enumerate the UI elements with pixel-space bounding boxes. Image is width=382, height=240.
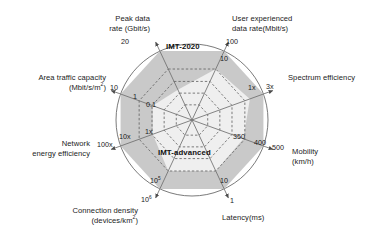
tick-spectrum-1x: 1x (248, 84, 256, 92)
tick-connection-density-10e6: 106 (141, 196, 152, 204)
series-label-imt-advanced: IMT-advanced (158, 148, 211, 157)
tick-network-energy-100x: 100x (97, 141, 113, 149)
axis-label-mobility-line2: (km/h) (292, 157, 378, 167)
axis-label-spectrum-efficiency-text: Spectrum efficiency (288, 73, 355, 82)
tick-network-energy-10x: 10x (119, 133, 131, 141)
axis-label-user-experienced-data-rate: User experienced data rate(Mbit/s) (232, 14, 342, 33)
axis-label-peak-data-rate-line2: rate (Gbit/s) (62, 24, 150, 34)
tick-conn-inner-base: 10 (150, 176, 158, 185)
axis-label-user-exp-line1: User experienced (232, 14, 292, 23)
radar-chart-canvas (0, 0, 382, 240)
axis-label-network-energy-line1: Network (62, 139, 90, 148)
tick-mobility-350: 350 (233, 133, 245, 141)
tick-network-energy-1x: 1x (145, 128, 153, 136)
tick-mobility-500: 500 (272, 144, 284, 152)
tick-latency-1: 1 (230, 197, 234, 205)
axis-label-area-traffic-close: ) (103, 83, 106, 92)
tick-area-traffic-1: 1 (133, 93, 137, 101)
axis-label-network-energy-efficiency: Network energy efficiency (4, 139, 90, 158)
axis-label-area-traffic-capacity: Area traffic capacity (Mbit/s/m2) (2, 73, 106, 92)
axis-label-area-traffic-unit: (Mbit/s/m (69, 83, 101, 92)
tick-latency-10: 10 (220, 177, 228, 185)
axis-label-mobility: Mobility (km/h) (292, 147, 378, 166)
tick-user-exp-100: 100 (226, 38, 238, 46)
tick-area-traffic-10: 10 (110, 84, 118, 92)
tick-spectrum-3x: 3x (266, 83, 274, 91)
axis-label-latency: Latency(ms) (222, 213, 306, 223)
axis-label-connection-density-unit: (devices/km (92, 216, 133, 225)
axis-label-network-energy-line2: energy efficiency (4, 149, 90, 159)
tick-conn-outer-base: 10 (141, 195, 149, 204)
tick-mobility-400: 400 (254, 139, 266, 147)
axis-label-mobility-line1: Mobility (292, 147, 318, 156)
tick-area-traffic-0.1: 0.1 (146, 101, 156, 109)
tick-connection-density-10e5: 105 (150, 177, 161, 185)
radar-chart-figure: Peak data rate (Gbit/s) User experienced… (0, 0, 382, 240)
tick-user-exp-10: 10 (220, 55, 228, 63)
axis-label-spectrum-efficiency: Spectrum efficiency (288, 73, 382, 83)
axis-label-latency-text: Latency(ms) (222, 213, 264, 222)
axis-label-connection-density: Connection density (devices/km2) (26, 206, 138, 225)
tick-conn-outer-exp: 6 (149, 195, 152, 200)
axis-label-connection-density-line2: (devices/km2) (26, 216, 138, 226)
tick-peak-data-rate-20: 20 (121, 38, 129, 46)
axis-label-area-traffic-line1: Area traffic capacity (38, 73, 106, 82)
axis-label-peak-data-rate: Peak data rate (Gbit/s) (62, 14, 150, 33)
axis-label-user-exp-line2: data rate(Mbit/s) (232, 24, 342, 34)
axis-label-connection-density-close: ) (135, 216, 138, 225)
series-label-imt-2020: IMT-2020 (166, 42, 200, 51)
axis-label-peak-data-rate-line1: Peak data (115, 14, 150, 23)
axis-label-connection-density-line1: Connection density (73, 206, 139, 215)
axis-label-area-traffic-line2: (Mbit/s/m2) (2, 83, 106, 93)
tick-conn-inner-exp: 5 (158, 176, 161, 181)
